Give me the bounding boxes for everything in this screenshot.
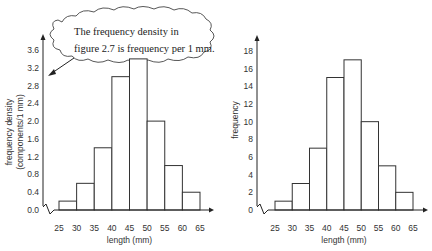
callout-line-1: The frequency density in: [74, 26, 179, 37]
y-tick-label: 18: [244, 46, 254, 56]
y-tick-label: 12: [244, 99, 254, 109]
y-tick-label: 0.0: [27, 205, 39, 215]
callout-arrowhead-icon: [48, 69, 56, 76]
x-tick-label: 40: [322, 223, 332, 233]
x-tick-label: 65: [408, 223, 418, 233]
histogram-bar: [310, 148, 327, 210]
histogram-bar: [59, 201, 77, 210]
histogram-bar: [182, 192, 200, 210]
histogram-bar: [165, 166, 183, 210]
x-tick-label: 45: [125, 223, 135, 233]
y-tick-label: 10: [244, 117, 254, 127]
callout-line-2: figure 2.7 is frequency per 1 mm.: [74, 43, 215, 54]
y-axis-arrow-icon: [255, 35, 260, 41]
frequency-density-histogram: 0.00.40.81.21.62.02.42.83.23.62530354045…: [4, 34, 214, 245]
x-tick-label: 50: [142, 223, 152, 233]
y-axis-label: frequency: [230, 101, 240, 139]
y-tick-label: 3.6: [27, 45, 39, 55]
y-tick-label: 4: [248, 170, 253, 180]
x-tick-label: 40: [107, 223, 117, 233]
frequency-histogram: 024681012141618253035404550556065length …: [230, 35, 428, 245]
y-tick-label: 2.0: [27, 116, 39, 126]
y-tick-label: 1.2: [27, 152, 39, 162]
histogram-bar: [77, 183, 95, 210]
y-tick-label: 0.4: [27, 187, 39, 197]
x-axis-arrow-icon: [423, 208, 428, 213]
y-tick-label: 2: [248, 187, 253, 197]
histogram-bar: [379, 166, 396, 210]
axis-break-icon: [257, 204, 268, 214]
x-tick-label: 25: [270, 223, 280, 233]
histogram-bar: [396, 192, 413, 210]
x-tick-label: 65: [195, 223, 205, 233]
histogram-bar: [130, 59, 148, 210]
x-tick-label: 30: [288, 223, 298, 233]
axis-break-icon: [43, 204, 54, 214]
y-tick-label: 3.2: [27, 63, 39, 73]
y-tick-label: 1.6: [27, 134, 39, 144]
y-tick-label: 14: [244, 81, 254, 91]
x-tick-label: 35: [90, 223, 100, 233]
figure-canvas: The frequency density in figure 2.7 is f…: [0, 0, 432, 251]
histogram-bar: [275, 201, 292, 210]
histogram-bar: [147, 121, 165, 210]
x-tick-label: 30: [72, 223, 82, 233]
x-tick-label: 55: [160, 223, 170, 233]
x-axis-arrow-icon: [209, 208, 214, 213]
y-tick-label: 8: [248, 134, 253, 144]
histogram-bar: [112, 77, 130, 210]
histogram-bar: [344, 60, 361, 210]
x-tick-label: 60: [178, 223, 188, 233]
histogram-bar: [292, 184, 309, 211]
y-tick-label: 2.4: [27, 98, 39, 108]
x-axis-label: length (mm): [107, 235, 153, 245]
y-tick-label: 0.8: [27, 169, 39, 179]
y-tick-label: 6: [248, 152, 253, 162]
histogram-bar: [327, 78, 344, 211]
y-tick-label: 0: [248, 205, 253, 215]
x-tick-label: 60: [391, 223, 401, 233]
x-tick-label: 35: [305, 223, 315, 233]
histogram-bar: [94, 148, 112, 210]
x-tick-label: 50: [357, 223, 367, 233]
y-axis-arrow-icon: [41, 34, 46, 40]
y-axis-label: (components/1 mm): [15, 94, 25, 170]
histogram-bar: [361, 122, 378, 210]
x-tick-label: 25: [54, 223, 64, 233]
y-tick-label: 2.8: [27, 81, 39, 91]
x-tick-label: 45: [339, 223, 349, 233]
callout-pointer: [52, 58, 74, 73]
y-tick-label: 16: [244, 64, 254, 74]
x-axis-label: length (mm): [321, 235, 367, 245]
y-axis-label: frequency density: [4, 98, 14, 165]
x-tick-label: 55: [374, 223, 384, 233]
